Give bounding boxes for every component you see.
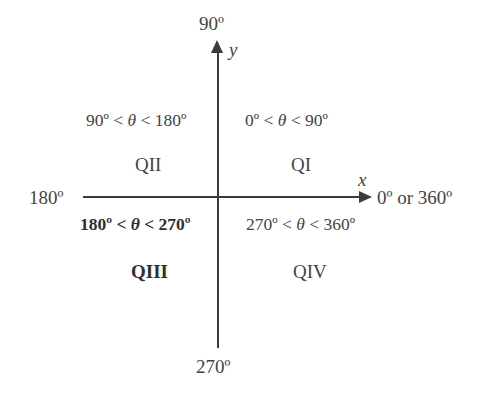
angle-label-top-90: 90º — [199, 14, 224, 33]
quadrant-label-qi: QI — [291, 155, 311, 174]
quadrant-label-qiv: QIV — [293, 262, 327, 281]
quadrant-angle-diagram: x y 90º 270º 180º 0º or 360º 90º < θ < 1… — [0, 0, 482, 397]
quadrant-label-qii: QII — [135, 155, 161, 174]
angle-range-qiv: 270º < θ < 360º — [246, 216, 355, 234]
angle-range-qii: 90º < θ < 180º — [86, 112, 186, 130]
y-axis-line — [217, 48, 219, 348]
angle-range-qi: 0º < θ < 90º — [245, 112, 328, 130]
angle-label-left-180: 180º — [29, 188, 63, 207]
y-axis-variable-label: y — [229, 40, 237, 59]
angle-range-qiii: 180º < θ < 270º — [80, 216, 191, 234]
y-axis-arrowhead-icon — [211, 40, 223, 53]
angle-label-bottom-270: 270º — [196, 357, 230, 376]
x-axis-variable-label: x — [358, 170, 366, 189]
x-axis-line — [83, 196, 363, 198]
quadrant-label-qiii: QIII — [131, 262, 168, 281]
angle-label-right-0-or-360: 0º or 360º — [377, 188, 452, 207]
x-axis-arrowhead-icon — [359, 191, 372, 203]
